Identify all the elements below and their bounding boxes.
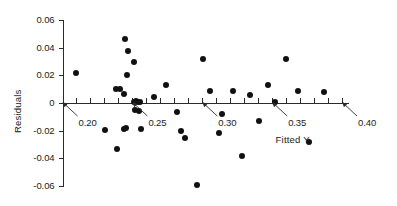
data-point [114, 146, 120, 152]
y-axis-tick-label: 0.04 [15, 42, 55, 53]
plot-area: 0.060.040.020-0.02-0.04-0.06 [0, 0, 397, 206]
data-point [123, 125, 129, 131]
y-axis-tick-label: 0.02 [15, 69, 55, 80]
y-axis-tick [59, 103, 64, 104]
y-axis-label: Residuals [12, 89, 23, 133]
data-point [138, 126, 144, 132]
x-axis-tick [328, 98, 329, 103]
x-axis-annotation-label: 0.25 [148, 117, 166, 128]
data-point [182, 135, 188, 141]
y-axis-tick-label: -0.06 [15, 180, 55, 191]
y-axis-tick [59, 48, 64, 49]
x-axis-tick [160, 98, 161, 103]
x-axis-annotation-label: 0.35 [288, 117, 306, 128]
data-point [256, 118, 262, 124]
data-point [265, 82, 271, 88]
data-point [272, 99, 278, 105]
x-axis-tick [118, 98, 119, 103]
data-point [151, 94, 157, 100]
data-point [239, 153, 245, 159]
x-axis-label: Fitted Y [276, 134, 310, 145]
data-point [200, 56, 206, 62]
x-axis-tick [188, 98, 189, 103]
x-axis-tick [202, 98, 203, 103]
y-axis-tick-label: -0.04 [15, 152, 55, 163]
data-point [136, 108, 142, 114]
data-point [131, 59, 137, 65]
data-point [216, 130, 222, 136]
y-axis-tick [59, 158, 64, 159]
y-axis-tick [59, 186, 64, 187]
data-point [321, 89, 327, 95]
data-point [174, 109, 180, 115]
data-point [295, 88, 301, 94]
y-axis-tick [59, 20, 64, 21]
x-axis-tick [314, 98, 315, 103]
data-point [194, 182, 200, 188]
residual-plot-figure: 0.060.040.020-0.02-0.04-0.06 0.200.250.3… [0, 0, 397, 206]
data-point [178, 128, 184, 134]
data-point [283, 56, 289, 62]
data-point [137, 99, 143, 105]
x-axis-tick [76, 98, 77, 103]
data-point [122, 36, 128, 42]
x-axis-tick [216, 98, 217, 103]
data-point [73, 70, 79, 76]
x-axis-line [63, 103, 349, 104]
x-axis-tick [342, 98, 343, 103]
x-axis-tick [230, 98, 231, 103]
x-axis-tick [146, 98, 147, 103]
x-axis-annotation-label: 0.20 [79, 117, 97, 128]
x-axis-annotation-label: 0.40 [358, 117, 376, 128]
data-point [125, 48, 131, 54]
y-axis-tick-label: 0.06 [15, 14, 55, 25]
x-axis-tick [244, 98, 245, 103]
x-axis-tick [300, 98, 301, 103]
data-point [247, 92, 253, 98]
data-point [113, 86, 119, 92]
y-axis-tick [59, 131, 64, 132]
y-axis-tick [59, 75, 64, 76]
x-axis-tick [286, 98, 287, 103]
x-axis-tick [258, 98, 259, 103]
x-axis-tick [90, 98, 91, 103]
data-point [124, 72, 130, 78]
data-point [163, 82, 169, 88]
data-point [207, 88, 213, 94]
x-axis-tick [104, 98, 105, 103]
data-point [230, 88, 236, 94]
x-axis-tick [174, 98, 175, 103]
x-axis-tick [63, 98, 64, 103]
x-axis-annotation-label: 0.30 [218, 117, 236, 128]
data-point [102, 127, 108, 133]
